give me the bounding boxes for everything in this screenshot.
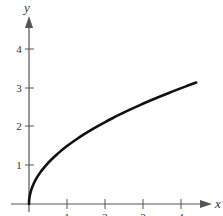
x-axis-label: x — [214, 196, 221, 211]
y-tick-label: 3 — [16, 82, 22, 94]
x-axis-arrow-icon — [200, 200, 212, 208]
sqrt-curve — [29, 83, 196, 204]
x-tick-label: 2 — [102, 211, 108, 216]
x-ticks: 1 2 3 4 — [64, 199, 184, 216]
y-tick-label: 2 — [16, 120, 22, 132]
y-axis-label: y — [22, 0, 30, 15]
x-tick-label: 4 — [178, 211, 184, 216]
y-tick-label: 4 — [16, 43, 22, 55]
y-tick-label: 1 — [16, 159, 22, 171]
x-tick-label: 1 — [64, 211, 70, 216]
y-ticks: 1 2 3 4 — [16, 43, 34, 171]
chart-canvas: y x 1 2 3 4 1 2 3 4 — [0, 0, 223, 216]
x-tick-label: 3 — [140, 211, 146, 216]
y-axis-arrow-icon — [25, 16, 33, 28]
